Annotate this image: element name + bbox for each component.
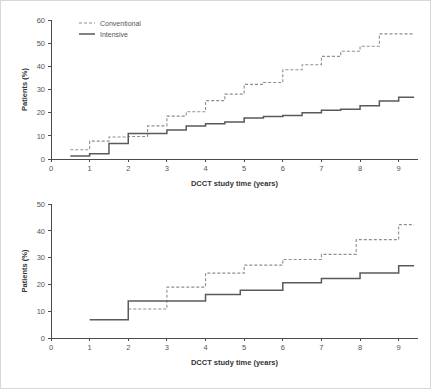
chart-svg-top: 01020304050600123456789DCCT study time (… bbox=[1, 1, 431, 196]
y-tick-label: 10 bbox=[37, 307, 45, 316]
x-tick-label: 9 bbox=[397, 343, 401, 352]
y-tick-label: 50 bbox=[37, 200, 45, 209]
y-tick-label: 60 bbox=[37, 16, 45, 25]
legend: ConventionalIntensive bbox=[79, 20, 141, 38]
y-tick-label: 10 bbox=[37, 132, 45, 141]
x-tick-label: 6 bbox=[281, 343, 285, 352]
y-tick-label: 30 bbox=[37, 253, 45, 262]
x-tick-label: 8 bbox=[358, 343, 362, 352]
x-tick-label: 7 bbox=[319, 343, 323, 352]
legend-label-intensive: Intensive bbox=[100, 31, 128, 38]
x-tick-label: 1 bbox=[88, 343, 92, 352]
x-tick-label: 4 bbox=[203, 343, 207, 352]
y-axis-title: Patients (%) bbox=[20, 68, 29, 111]
x-tick-label: 5 bbox=[242, 164, 246, 173]
chart-svg-bottom: 010203040500123456789DCCT study time (ye… bbox=[1, 196, 431, 389]
y-tick-label: 20 bbox=[37, 108, 45, 117]
x-tick-label: 9 bbox=[397, 164, 401, 173]
series-line-intensive bbox=[70, 97, 414, 156]
x-tick-label: 3 bbox=[165, 164, 169, 173]
legend-label-conventional: Conventional bbox=[100, 20, 141, 27]
figure-frame: 01020304050600123456789DCCT study time (… bbox=[0, 0, 431, 389]
x-tick-label: 6 bbox=[281, 164, 285, 173]
x-tick-label: 5 bbox=[242, 343, 246, 352]
x-tick-label: 2 bbox=[126, 343, 130, 352]
y-tick-label: 40 bbox=[37, 227, 45, 236]
x-tick-label: 0 bbox=[49, 164, 53, 173]
y-axis-title: Patients (%) bbox=[20, 249, 29, 292]
series-line-conventional bbox=[128, 225, 414, 309]
x-axis-title: DCCT study time (years) bbox=[191, 179, 279, 188]
y-tick-label: 0 bbox=[41, 155, 45, 164]
y-tick-label: 50 bbox=[37, 39, 45, 48]
y-tick-label: 0 bbox=[41, 334, 45, 343]
x-tick-label: 8 bbox=[358, 164, 362, 173]
x-tick-label: 3 bbox=[165, 343, 169, 352]
series-line-intensive bbox=[90, 266, 415, 320]
series-line-conventional bbox=[70, 34, 414, 150]
x-axis-title: DCCT study time (years) bbox=[191, 358, 279, 367]
x-tick-label: 4 bbox=[203, 164, 207, 173]
x-tick-label: 0 bbox=[49, 343, 53, 352]
chart-panel-top: 01020304050600123456789DCCT study time (… bbox=[1, 1, 431, 196]
x-tick-label: 2 bbox=[126, 164, 130, 173]
y-tick-label: 40 bbox=[37, 62, 45, 71]
y-tick-label: 20 bbox=[37, 280, 45, 289]
x-tick-label: 1 bbox=[88, 164, 92, 173]
x-tick-label: 7 bbox=[319, 164, 323, 173]
y-tick-label: 30 bbox=[37, 85, 45, 94]
chart-panel-bottom: 010203040500123456789DCCT study time (ye… bbox=[1, 196, 431, 389]
